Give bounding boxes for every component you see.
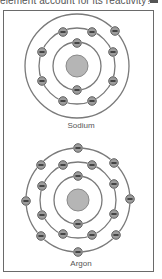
minus-sign-icon	[23, 200, 28, 201]
electron-icon	[36, 231, 46, 241]
minus-sign-icon	[89, 31, 94, 32]
minus-sign-icon	[39, 51, 44, 52]
electron-icon	[73, 171, 83, 181]
electron-icon	[37, 76, 47, 86]
nucleus	[67, 189, 89, 211]
minus-sign-icon	[89, 100, 94, 101]
electron-icon	[73, 247, 83, 257]
minus-sign-icon	[113, 234, 118, 235]
minus-sign-icon	[111, 162, 116, 163]
electron-icon	[21, 196, 31, 206]
electron-icon	[72, 85, 82, 95]
nucleus	[66, 55, 88, 77]
sodium-label: Sodium	[0, 121, 162, 130]
minus-sign-icon	[60, 233, 65, 234]
minus-sign-icon	[39, 80, 44, 81]
electron-icon	[87, 230, 97, 240]
electron-icon	[125, 194, 135, 204]
minus-sign-icon	[111, 213, 116, 214]
minus-sign-icon	[38, 235, 43, 236]
electron-icon	[108, 76, 118, 86]
electron-icon	[58, 160, 68, 170]
minus-sign-icon	[74, 89, 79, 90]
minus-sign-icon	[110, 80, 115, 81]
minus-sign-icon	[60, 31, 65, 32]
electron-icon	[58, 27, 68, 37]
electron-icon	[87, 160, 97, 170]
electron-icon	[87, 96, 97, 106]
minus-sign-icon	[60, 100, 65, 101]
minus-sign-icon	[75, 147, 80, 148]
argon-atom	[21, 143, 135, 257]
electron-icon	[72, 38, 82, 48]
minus-sign-icon	[74, 42, 79, 43]
minus-sign-icon	[60, 164, 65, 165]
electron-icon	[73, 219, 83, 229]
electron-icon	[58, 229, 68, 239]
electron-icon	[87, 27, 97, 37]
electron-icon	[37, 210, 47, 220]
electron-icon	[37, 181, 47, 191]
minus-sign-icon	[127, 198, 132, 199]
electron-icon	[111, 230, 121, 240]
electron-icon	[110, 26, 120, 36]
minus-sign-icon	[39, 214, 44, 215]
minus-sign-icon	[112, 30, 117, 31]
electron-icon	[109, 158, 119, 168]
minus-sign-icon	[75, 251, 80, 252]
minus-sign-icon	[89, 164, 94, 165]
electron-icon	[109, 179, 119, 189]
minus-sign-icon	[38, 164, 43, 165]
minus-sign-icon	[89, 234, 94, 235]
minus-sign-icon	[75, 223, 80, 224]
minus-sign-icon	[39, 185, 44, 186]
electron-icon	[109, 209, 119, 219]
sodium-atom	[25, 14, 129, 118]
minus-sign-icon	[111, 183, 116, 184]
minus-sign-icon	[75, 175, 80, 176]
electron-icon	[37, 47, 47, 57]
minus-sign-icon	[110, 51, 115, 52]
argon-label: Argon	[0, 259, 162, 268]
electron-icon	[108, 47, 118, 57]
electron-icon	[73, 143, 83, 153]
electron-icon	[36, 160, 46, 170]
atom-diagrams	[0, 0, 162, 279]
electron-icon	[58, 96, 68, 106]
